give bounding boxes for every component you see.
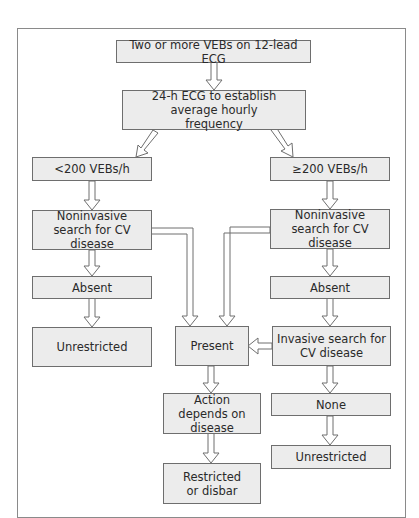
node-restricted: Restricted or disbar <box>163 463 261 504</box>
node-none: None <box>271 393 391 416</box>
node-low-noninvasive: Noninvasive search for CV disease <box>32 210 152 250</box>
node-low-absent: Absent <box>32 276 152 299</box>
node-low-freq: <200 VEBs/h <box>32 157 152 181</box>
node-holter: 24-h ECG to establish average hourly fre… <box>122 90 306 130</box>
node-invasive: Invasive search for CV disease <box>272 326 391 366</box>
node-high-noninvasive: Noninvasive search for CV disease <box>270 209 390 249</box>
node-present: Present <box>175 326 249 366</box>
node-low-unrestricted: Unrestricted <box>32 327 152 367</box>
node-high-absent: Absent <box>270 276 390 299</box>
node-high-unrestricted: Unrestricted <box>271 445 391 469</box>
node-high-freq: ≥200 VEBs/h <box>270 157 390 181</box>
node-action: Action depends on disease <box>163 393 261 434</box>
node-start: Two or more VEBs on 12-lead ECG <box>116 40 311 63</box>
